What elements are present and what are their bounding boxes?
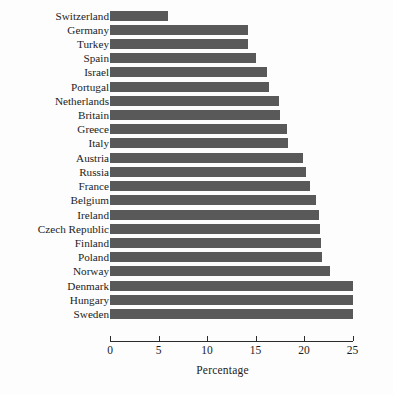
x-axis-tick-label: 10 [192,344,222,357]
bar [110,210,319,220]
bar-category-label: Italy [0,137,109,149]
bar-row: Switzerland [0,10,393,24]
bar [110,39,248,49]
bar-category-label: Spain [0,52,109,64]
bar [110,281,353,291]
x-axis-tick-label: 25 [338,344,368,357]
x-axis-tick [304,336,305,341]
bar-row: Denmark [0,280,393,294]
bar-category-label: Netherlands [0,95,109,107]
x-axis-title-text: Percentage [196,364,248,376]
x-axis-tick [207,336,208,341]
bar [110,266,330,276]
bar-category-label: Britain [0,109,109,121]
bar-row: Turkey [0,38,393,52]
bar-row: Spain [0,52,393,66]
bar-row: Germany [0,24,393,38]
bar [110,224,320,234]
x-axis-tick [353,336,354,341]
bar-category-label: Portugal [0,81,109,93]
bar-row: Finland [0,237,393,251]
bar-category-label: Switzerland [0,10,109,22]
bar [110,153,303,163]
bar-category-label: Hungary [0,294,109,306]
plot-area: SwitzerlandGermanyTurkeySpainIsraelPortu… [0,0,393,395]
bar-row: Portugal [0,81,393,95]
bar-row: Belgium [0,194,393,208]
bar-category-label: Czech Republic [0,223,109,235]
bar-category-label: France [0,180,109,192]
bar-row: Greece [0,123,393,137]
bar-row: Czech Republic [0,223,393,237]
bar-category-label: Ireland [0,209,109,221]
x-axis-tick [159,336,160,341]
bar-row: Italy [0,137,393,151]
bar [110,309,353,319]
bar-row: Poland [0,251,393,265]
bar-row: Russia [0,166,393,180]
bar-row: Netherlands [0,95,393,109]
x-axis-line [110,341,353,342]
bar [110,53,256,63]
bar [110,238,321,248]
bar-category-label: Finland [0,237,109,249]
bar-category-label: Austria [0,152,109,164]
bar [110,110,280,120]
bar [110,195,316,205]
bar-row: Britain [0,109,393,123]
bar-category-label: Israel [0,66,109,78]
x-axis-tick [110,336,111,341]
bar-category-label: Poland [0,251,109,263]
bar-category-label: Belgium [0,194,109,206]
bar-category-label: Norway [0,265,109,277]
bar-row: Austria [0,152,393,166]
bar-row: Israel [0,66,393,80]
bar [110,11,168,21]
x-axis-title: Percentage [0,364,393,376]
bar-category-label: Turkey [0,38,109,50]
bar-chart-figure: SwitzerlandGermanyTurkeySpainIsraelPortu… [0,0,393,395]
bar-row: Sweden [0,308,393,322]
bar-row: Norway [0,265,393,279]
bar-category-label: Greece [0,123,109,135]
bar [110,124,287,134]
bar-category-label: Russia [0,166,109,178]
bar [110,167,306,177]
bar [110,67,267,77]
x-axis-tick-label: 15 [241,344,271,357]
bar [110,82,269,92]
x-axis-tick-label: 20 [289,344,319,357]
bar-category-label: Germany [0,24,109,36]
bar-row: France [0,180,393,194]
bar [110,252,322,262]
bar-row: Ireland [0,209,393,223]
bar-category-label: Denmark [0,280,109,292]
bar [110,181,310,191]
bar [110,295,353,305]
bar [110,25,248,35]
bar-category-label: Sweden [0,308,109,320]
x-axis-tick [256,336,257,341]
x-axis-tick-label: 0 [95,344,125,357]
bar [110,138,288,148]
bar [110,96,279,106]
x-axis-tick-label: 5 [144,344,174,357]
bar-row: Hungary [0,294,393,308]
